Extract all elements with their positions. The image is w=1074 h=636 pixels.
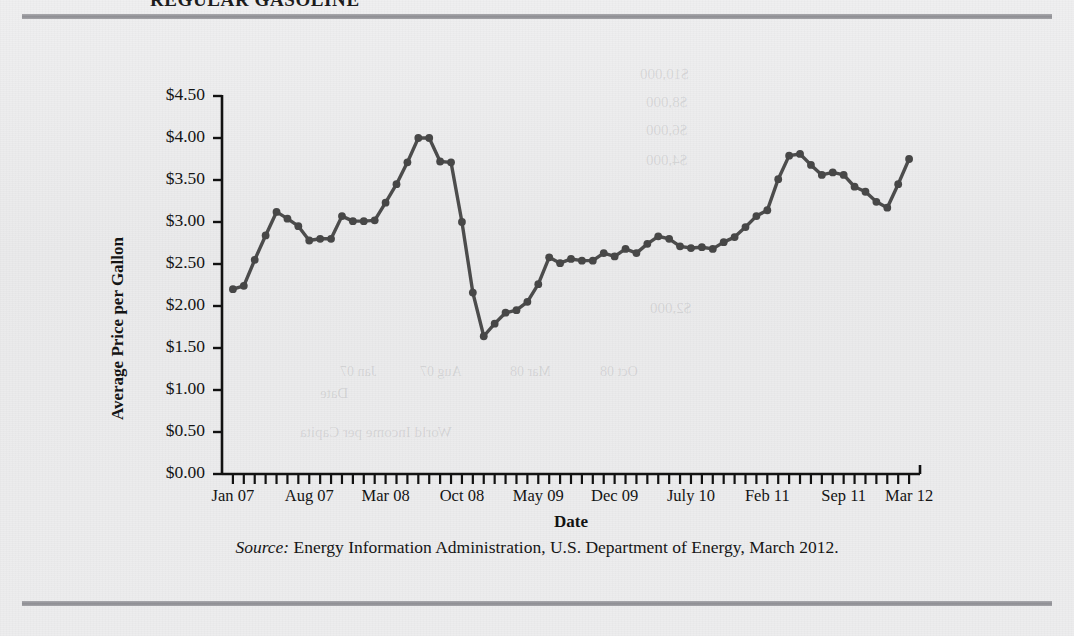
x-tick-label: Feb 11 xyxy=(727,486,807,506)
source-label: Source: xyxy=(235,537,289,557)
x-tick-label: Mar 12 xyxy=(869,486,949,506)
x-tick-label: Dec 09 xyxy=(575,486,655,506)
x-tick-label: Aug 07 xyxy=(269,486,349,506)
y-tick-label: $0.50 xyxy=(127,420,205,441)
x-axis-title: Date xyxy=(541,512,601,532)
y-tick-label: $2.50 xyxy=(127,252,205,273)
y-tick-label: $4.50 xyxy=(127,84,205,105)
y-tick-label: $3.00 xyxy=(127,210,205,231)
x-tick-label: Mar 08 xyxy=(346,486,426,506)
x-tick-label: July 10 xyxy=(651,486,731,506)
gasoline-price-chart: Average Price per Gallon Date $0.00$0.50… xyxy=(0,0,1074,600)
y-tick-label: $0.00 xyxy=(127,462,205,483)
y-tick-label: $1.00 xyxy=(127,378,205,399)
y-tick-label: $2.00 xyxy=(127,294,205,315)
bottom-divider-rule xyxy=(22,601,1052,606)
y-tick-label: $1.50 xyxy=(127,336,205,357)
y-tick-label: $3.50 xyxy=(127,168,205,189)
x-tick-label: Oct 08 xyxy=(422,486,502,506)
x-tick-label: May 09 xyxy=(498,486,578,506)
source-note: Source: Energy Information Administratio… xyxy=(0,537,1074,558)
x-tick-label: Jan 07 xyxy=(193,486,273,506)
source-text: Energy Information Administration, U.S. … xyxy=(289,537,838,557)
y-tick-label: $4.00 xyxy=(127,126,205,147)
